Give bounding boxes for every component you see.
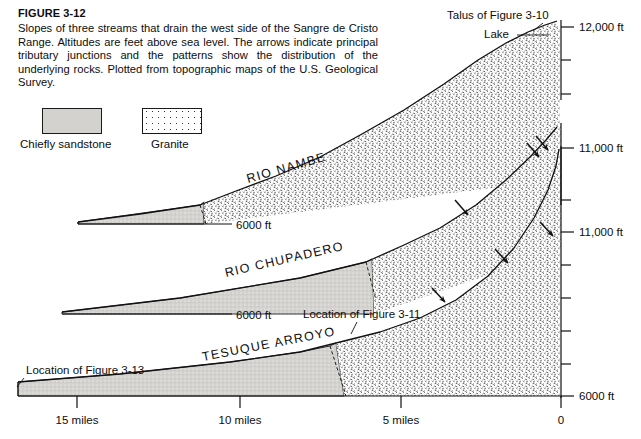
x-axis-label-15: 15 miles	[56, 414, 99, 426]
rock-body-sandstone-chupadero	[62, 259, 374, 314]
location-3-11-label: Location of Figure 3-11	[303, 308, 420, 320]
y-axis-panel-1: 12,000 ft	[561, 20, 625, 100]
location-3-13-label: Location of Figure 3-13	[26, 364, 144, 376]
x-axis: 15 miles 10 miles 5 miles 0	[56, 396, 565, 426]
profile-plot: RIO NAMBE 6000 ft 12,000 ft Talus of Fig…	[0, 0, 641, 439]
talus-label: Talus of Figure 3-10	[447, 9, 549, 21]
lake-label: Lake	[484, 28, 509, 40]
figure-3-12: FIGURE 3-12 Slopes of three streams that…	[0, 0, 641, 439]
rock-body-sandstone-nambe	[78, 202, 204, 224]
y-axis-label-12000: 12,000 ft	[579, 21, 625, 33]
y-axis-label-11000-a: 11,000 ft	[579, 142, 624, 154]
baseline-label-chupadero: 6000 ft	[236, 309, 272, 321]
baseline-label-nambe: 6000 ft	[236, 219, 272, 231]
y-axis-label-11000-b: 11,000 ft	[579, 226, 624, 238]
x-axis-label-0: 0	[558, 414, 564, 426]
x-axis-label-10: 10 miles	[219, 414, 262, 426]
y-axis-label-6000: 6000 ft	[579, 390, 615, 402]
location-3-11-leader-line	[351, 322, 357, 334]
y-axis-panel-3: 11,000 ft 6000 ft	[561, 146, 624, 402]
x-axis-label-5: 5 miles	[383, 414, 420, 426]
y-axis-panel-2: 11,000 ft	[561, 123, 624, 205]
tributary-arrow-icon	[455, 200, 468, 215]
